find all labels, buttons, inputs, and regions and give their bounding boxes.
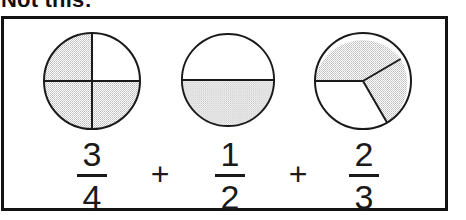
numerator: 3 [77, 137, 107, 171]
sector-bottom-shaded [182, 80, 274, 126]
fraction-one-half: 1 2 [200, 137, 260, 214]
plus-icon: + [289, 156, 308, 192]
operator-plus-1: + [140, 137, 180, 171]
fraction-bar [77, 174, 107, 177]
sector-top-unshaded [182, 34, 274, 80]
pie-three-quarters-svg [42, 31, 142, 131]
pie-chart-one-half [180, 31, 276, 129]
numerator: 2 [349, 137, 379, 171]
fraction-bar [215, 174, 245, 177]
denominator: 2 [215, 180, 245, 214]
fraction-three-fourths: 3 4 [62, 137, 122, 214]
denominator: 4 [77, 180, 107, 214]
fraction-body: 1 2 [215, 137, 245, 214]
figure-frame: 3 4 + 1 2 + 2 [1, 16, 448, 211]
fraction-bar [349, 174, 379, 177]
figure-inner: 3 4 + 1 2 + 2 [4, 19, 445, 208]
plus-icon: + [151, 156, 170, 192]
caption-not-this: Not this: [1, 0, 92, 12]
pie-chart-three-quarters [42, 31, 142, 131]
fraction-body: 2 3 [349, 137, 379, 214]
caption-clip: Not this: [0, 0, 200, 15]
operator-plus-2: + [278, 137, 318, 171]
fraction-body: 3 4 [77, 137, 107, 214]
equation-row: 3 4 + 1 2 + 2 [4, 137, 445, 211]
pie-chart-two-thirds [313, 31, 413, 131]
pie-two-thirds-svg [313, 31, 413, 131]
fraction-two-thirds: 2 3 [334, 137, 394, 214]
numerator: 1 [215, 137, 245, 171]
pie-one-half-svg [180, 31, 276, 129]
denominator: 3 [349, 180, 379, 214]
